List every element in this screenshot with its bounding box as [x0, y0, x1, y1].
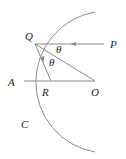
label-o: O	[91, 86, 99, 98]
mirror-arc	[36, 12, 95, 152]
label-r: R	[41, 86, 49, 98]
arrow-left-icon	[70, 42, 76, 46]
label-a: A	[7, 76, 15, 88]
label-theta-lower: θ	[49, 56, 55, 68]
label-c: C	[21, 118, 29, 130]
reflection-diagram: Q P θ θ A R O C	[0, 0, 126, 159]
label-q: Q	[25, 30, 33, 42]
label-p: P	[109, 38, 117, 50]
label-theta-upper: θ	[56, 43, 62, 55]
normal-line-qo	[35, 44, 95, 81]
